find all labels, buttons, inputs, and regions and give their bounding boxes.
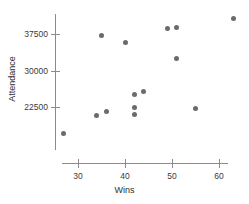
y-axis-title: Attendance	[7, 29, 17, 129]
y-axis-tick	[51, 107, 60, 108]
x-axis-tick-label: 40	[110, 171, 140, 181]
data-point	[132, 105, 137, 110]
x-axis-tick-label: 50	[157, 171, 187, 181]
data-point	[104, 109, 109, 114]
data-point	[174, 25, 179, 30]
data-point	[165, 26, 170, 31]
data-point	[231, 16, 236, 21]
x-axis-tick	[172, 159, 173, 168]
x-axis-title: Wins	[0, 185, 249, 195]
data-point	[132, 112, 137, 117]
data-point	[132, 92, 137, 97]
y-axis-tick	[51, 71, 60, 72]
scatter-chart: 225003000037500 30405060 Attendance Wins	[0, 0, 249, 204]
data-point	[123, 40, 128, 45]
x-axis-tick	[125, 159, 126, 168]
x-axis-tick-label: 60	[204, 171, 234, 181]
x-axis-tick	[78, 159, 79, 168]
data-point	[193, 106, 198, 111]
data-point	[174, 56, 179, 61]
y-axis-tick	[51, 34, 60, 35]
data-point	[61, 131, 66, 136]
x-axis-tick-label: 30	[63, 171, 93, 181]
data-point	[141, 89, 146, 94]
data-point	[94, 113, 99, 118]
x-axis-tick	[219, 159, 220, 168]
x-axis-line	[62, 163, 228, 164]
data-point	[99, 33, 104, 38]
